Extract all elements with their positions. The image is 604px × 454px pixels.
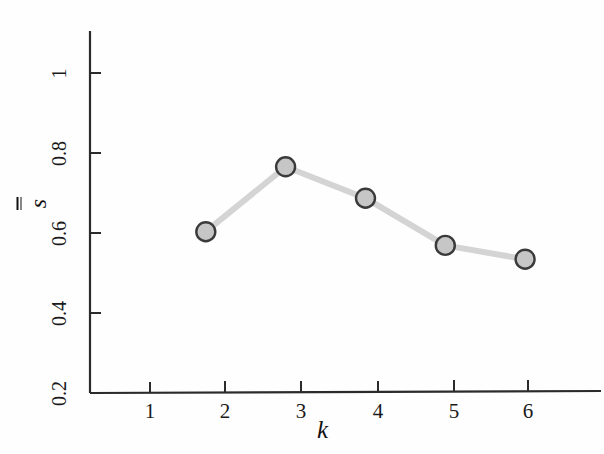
x-tick-label-3: 3 bbox=[281, 399, 321, 424]
y-tick-label-0-2: 0.2 bbox=[48, 362, 71, 426]
data-point-marker bbox=[436, 236, 455, 255]
y-tick-label-1: 1 bbox=[48, 51, 71, 97]
x-tick-label-2: 2 bbox=[205, 399, 245, 424]
double-bar-accent-icon bbox=[17, 197, 25, 210]
data-point-marker bbox=[356, 189, 375, 208]
x-axis-spine bbox=[90, 391, 601, 393]
x-tick-label-5: 5 bbox=[434, 399, 474, 424]
chart-canvas bbox=[0, 0, 604, 454]
data-point-marker bbox=[516, 250, 535, 269]
data-point-marker bbox=[196, 222, 215, 241]
y-axis-ticks bbox=[90, 73, 101, 313]
data-series-line bbox=[206, 167, 525, 259]
y-axis-title: s bbox=[25, 178, 52, 230]
y-tick-label-0-4: 0.4 bbox=[48, 282, 71, 346]
y-axis-title-letter: s bbox=[25, 199, 51, 208]
y-tick-label-0-8: 0.8 bbox=[48, 122, 71, 186]
x-tick-label-6: 6 bbox=[508, 399, 548, 424]
x-tick-label-4: 4 bbox=[358, 399, 398, 424]
chart-figure: 1 0.8 0.6 0.4 0.2 1 2 3 4 5 6 s k bbox=[0, 0, 604, 454]
x-axis-title: k bbox=[317, 416, 328, 444]
x-tick-label-1: 1 bbox=[130, 399, 170, 424]
y-axis-title-glyph: s bbox=[26, 199, 50, 208]
data-point-marker bbox=[276, 157, 295, 176]
